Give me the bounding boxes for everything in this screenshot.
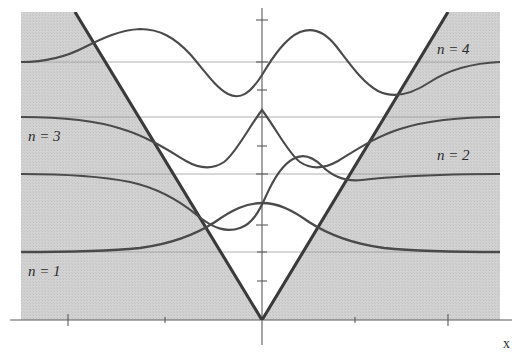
axis-label-x: x xyxy=(503,336,510,351)
label-n3: n = 3 xyxy=(28,128,61,144)
label-n2: n = 2 xyxy=(437,147,470,163)
wavefunction-plot: n = 4 n = 3 n = 2 n = 1 x xyxy=(0,0,521,362)
label-n1: n = 1 xyxy=(28,263,61,279)
label-n4: n = 4 xyxy=(437,41,470,57)
forbidden-region xyxy=(21,12,500,320)
